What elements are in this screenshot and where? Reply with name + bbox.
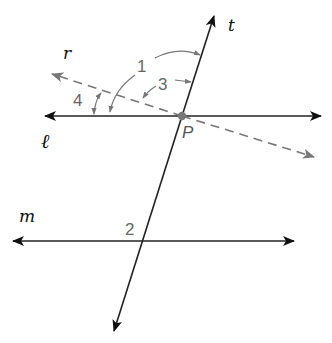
label-angle-2: 2	[125, 220, 134, 239]
label-angle-1: 1	[137, 57, 146, 76]
label-t: t	[228, 15, 235, 35]
line-t	[114, 16, 214, 331]
label-r: r	[63, 43, 72, 63]
point-p	[178, 112, 186, 120]
label-m: m	[19, 206, 35, 226]
label-angle-4: 4	[73, 91, 82, 110]
geometry-diagram: t r ℓ m P 1 2 3 4	[0, 0, 332, 343]
label-l: ℓ	[41, 129, 50, 153]
angle-4-marks	[94, 93, 101, 114]
label-angle-3: 3	[158, 75, 167, 94]
label-p: P	[182, 123, 194, 142]
